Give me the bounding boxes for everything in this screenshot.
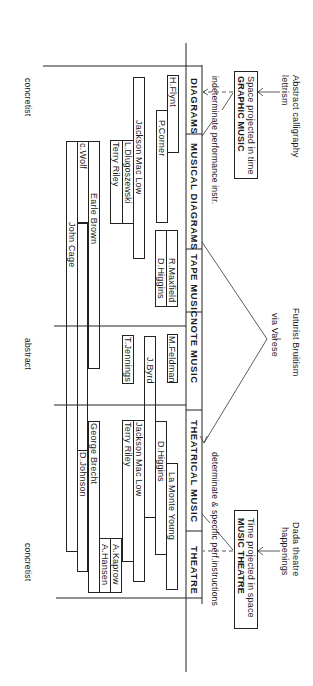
composer-label: D.Higgins bbox=[156, 441, 166, 482]
category-theatre: THEATRE bbox=[189, 546, 199, 594]
composer-label: John Cage bbox=[67, 222, 77, 267]
category-diagrams: DIAGRAMS bbox=[189, 78, 199, 135]
influence-via-varese: via Varese bbox=[270, 313, 280, 357]
influence-lettrism: lettrism bbox=[280, 75, 290, 106]
composer-label: c.Wolf bbox=[78, 143, 88, 169]
composer-label: D.Higgins bbox=[156, 258, 166, 299]
axis-label-concretist-bottom: concretist bbox=[23, 543, 33, 581]
composer-label: M.Feldman bbox=[167, 336, 177, 383]
connector-lines bbox=[0, 0, 313, 686]
graphic-music-subtitle: Space projected in time bbox=[246, 76, 256, 175]
category-musical-diagrams: MUSICAL DIAGRAMS bbox=[189, 143, 199, 250]
music-theatre-title: MUSIC THEATRE bbox=[236, 518, 246, 594]
axis-label-concretist-top: concretist bbox=[23, 78, 33, 116]
composer-label: Jackson Mac Low bbox=[134, 120, 144, 195]
composer-label: D.Johnson bbox=[78, 452, 88, 497]
composer-label: Earle Brown bbox=[89, 193, 99, 244]
composer-label: L.Dlugoszewski bbox=[123, 142, 133, 204]
influence-abstract-calligraphy: Abstract calligraphy bbox=[291, 75, 301, 158]
influence-happenings: happenings bbox=[280, 527, 290, 576]
music-theatre-subtitle: Time projected in space bbox=[246, 518, 256, 618]
influence-futurist-bruitism: Futurist Bruitism bbox=[291, 308, 301, 376]
composer-label: George Brecht bbox=[89, 423, 99, 484]
composer-label: Terry Riley bbox=[111, 142, 121, 187]
graphic-music-title: GRAPHIC MUSIC bbox=[236, 76, 246, 152]
composer-bar-earle-brown bbox=[88, 141, 100, 369]
composer-label: J.Byrd bbox=[145, 357, 155, 384]
determinate-annotation: determinate & specific perf.instructions bbox=[210, 452, 220, 606]
composer-label: Jackson Mac Low bbox=[134, 422, 144, 497]
composer-label: H.Flynt bbox=[168, 77, 178, 107]
category-note-music: NOTE MUSIC bbox=[189, 318, 199, 384]
category-theatrical-music: THEATRICAL MUSIC bbox=[189, 420, 199, 523]
composer-label: La Monte Young bbox=[167, 472, 177, 540]
composer-label: R.Maxfield bbox=[167, 258, 177, 303]
composer-label: A.Kaprow bbox=[111, 544, 121, 585]
category-tape-music: TAPE MUSIC bbox=[189, 254, 199, 318]
axis-label-abstract: abstract bbox=[23, 338, 33, 370]
composer-label: T.Jennings bbox=[123, 337, 133, 382]
composer-label: Terry Riley bbox=[123, 422, 133, 467]
influence-dada-theatre: Dada theatre bbox=[291, 522, 301, 576]
indeterminate-annotation: indeterminate performance instr. bbox=[210, 76, 220, 204]
composer-label: A.Hansen bbox=[100, 544, 110, 585]
composer-label: P.Corner bbox=[157, 120, 167, 156]
